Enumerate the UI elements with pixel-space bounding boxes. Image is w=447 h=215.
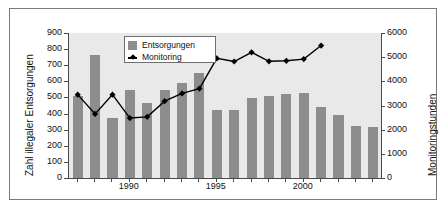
- y-right-tick-1000: [381, 154, 385, 155]
- y-left-tick-200: [64, 146, 68, 147]
- x-tick-1998: [268, 178, 269, 182]
- y-axis-right-title: Monitoringstunden: [427, 94, 438, 176]
- marker-1996: [231, 58, 237, 64]
- chart-legend: Entsorgungen Monitoring: [124, 36, 216, 63]
- marker-1994: [196, 85, 202, 91]
- y-left-tick-700: [64, 65, 68, 66]
- y-left-tick-900: [64, 33, 68, 34]
- y-axis-left-title: Zahl illegaler Entsorgungen: [24, 54, 35, 176]
- y-right-tick-label-3000: 3000: [387, 101, 421, 110]
- y-left-tick-600: [64, 81, 68, 82]
- x-tick-label-1990: 1990: [109, 182, 149, 191]
- legend-diamond-line-icon: [128, 53, 137, 62]
- y-right-tick-4000: [381, 81, 385, 82]
- x-tick-2002: [338, 178, 339, 182]
- y-right-tick-label-0: 0: [387, 173, 421, 182]
- x-tick-1988: [94, 178, 95, 182]
- y-right-tick-2000: [381, 130, 385, 131]
- y-right-tick-label-6000: 6000: [387, 28, 421, 37]
- legend-bar-swatch-icon: [128, 41, 137, 50]
- y-right-tick-0: [381, 178, 385, 179]
- y-left-tick-label-900: 900: [28, 28, 62, 37]
- y-left-tick-300: [64, 130, 68, 131]
- x-tick-2004: [372, 178, 373, 182]
- y-left-tick-0: [64, 178, 68, 179]
- marker-1993: [179, 90, 185, 96]
- marker-1999: [283, 58, 289, 64]
- legend-item-entsorgungen: Entsorgungen: [128, 40, 212, 51]
- x-tick-label-2000: 2000: [283, 182, 323, 191]
- y-right-tick-label-4000: 4000: [387, 76, 421, 85]
- x-tick-2003: [355, 178, 356, 182]
- marker-1997: [248, 49, 254, 55]
- y-right-tick-label-5000: 5000: [387, 52, 421, 61]
- legend-label-entsorgungen: Entsorgungen: [142, 41, 195, 50]
- y-left-tick-500: [64, 97, 68, 98]
- y-right-tick-6000: [381, 33, 385, 34]
- y-right-tick-label-2000: 2000: [387, 125, 421, 134]
- plot-area: [68, 33, 381, 178]
- legend-item-monitoring: Monitoring: [128, 52, 212, 63]
- x-tick-1997: [251, 178, 252, 182]
- line-series-monitoring: [69, 33, 382, 178]
- x-tick-1993: [181, 178, 182, 182]
- x-tick-1992: [164, 178, 165, 182]
- plot-inner: [69, 33, 381, 178]
- chart-figure: 0100200300400500600700800900 01000200030…: [0, 0, 447, 215]
- y-right-tick-5000: [381, 57, 385, 58]
- y-right-tick-3000: [381, 106, 385, 107]
- legend-label-monitoring: Monitoring: [142, 53, 182, 62]
- y-left-tick-400: [64, 114, 68, 115]
- y-right-tick-label-1000: 1000: [387, 149, 421, 158]
- x-axis-line: [68, 178, 381, 179]
- y-left-tick-800: [64, 49, 68, 50]
- x-tick-1987: [77, 178, 78, 182]
- marker-1998: [266, 58, 272, 64]
- x-tick-label-1995: 1995: [196, 182, 236, 191]
- y-left-tick-100: [64, 162, 68, 163]
- y-left-tick-label-800: 800: [28, 44, 62, 53]
